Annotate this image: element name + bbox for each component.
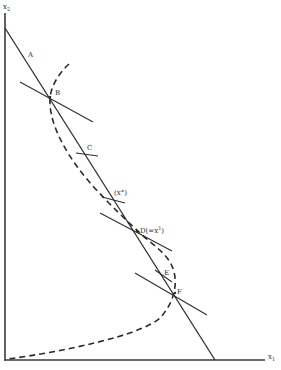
- diagram-canvas: [0, 0, 281, 370]
- dashed-curve: [8, 64, 175, 359]
- label-e: E: [164, 270, 169, 277]
- label-f: F: [177, 289, 182, 296]
- label-d-main: D(=x: [140, 227, 158, 235]
- y-axis-label-sub: 2: [7, 6, 10, 12]
- label-b: B: [55, 90, 60, 97]
- point-f-marker: [174, 292, 176, 294]
- label-c: C: [87, 145, 92, 152]
- budget-line: [5, 28, 215, 360]
- x-axis-label-sub: 1: [272, 356, 275, 362]
- label-a: A: [28, 52, 33, 59]
- tick-c: [76, 153, 98, 156]
- label-d-close: ): [161, 227, 164, 235]
- x-axis-label: x1: [268, 354, 275, 362]
- tick-x0: [102, 197, 125, 203]
- tangent-line-b: [20, 82, 93, 122]
- label-x0: (x°): [114, 190, 127, 197]
- point-b-marker: [49, 96, 51, 98]
- tangent-line-f: [135, 273, 207, 315]
- label-d: D(=x1): [140, 226, 164, 235]
- point-d-marker: [136, 230, 138, 232]
- y-axis-label: x2: [3, 4, 10, 12]
